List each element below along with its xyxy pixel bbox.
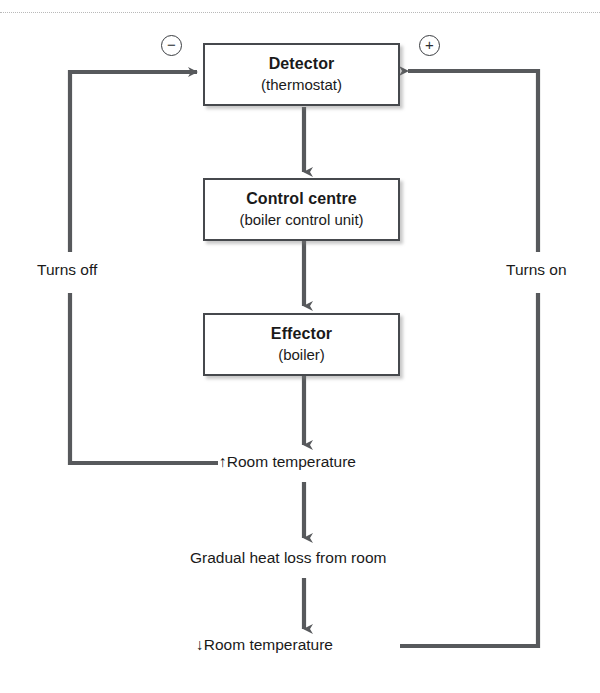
- label-room-temperature-decrease: ↓Room temperature: [196, 636, 333, 654]
- plus-circle-icon: +: [419, 35, 440, 56]
- box-control-centre-title: Control centre: [246, 190, 357, 209]
- box-control-centre[interactable]: Control centre (boiler control unit): [203, 178, 400, 241]
- box-detector-subtitle: (thermostat): [261, 76, 342, 94]
- box-effector-subtitle: (boiler): [278, 346, 325, 364]
- label-turns-on: Turns on: [502, 261, 571, 279]
- label-room-temperature-increase: ↑Room temperature: [219, 453, 356, 471]
- minus-glyph: −: [167, 37, 176, 52]
- feedback-path-left-lower: [70, 293, 218, 463]
- label-gradual-heat-loss: Gradual heat loss from room: [190, 549, 386, 567]
- box-effector[interactable]: Effector (boiler): [203, 313, 400, 376]
- box-control-centre-subtitle: (boiler control unit): [239, 211, 363, 229]
- feedback-path-left-upper: [70, 72, 197, 252]
- box-detector[interactable]: Detector (thermostat): [203, 43, 400, 106]
- diagram-canvas: Detector (thermostat) Control centre (bo…: [0, 0, 600, 693]
- box-detector-title: Detector: [269, 55, 335, 74]
- plus-glyph: +: [425, 37, 434, 52]
- label-turns-off: Turns off: [33, 261, 101, 279]
- feedback-path-right-lower: [400, 293, 538, 646]
- feedback-path-right-upper: [408, 71, 538, 252]
- box-effector-title: Effector: [271, 325, 332, 344]
- minus-circle-icon: −: [161, 35, 182, 56]
